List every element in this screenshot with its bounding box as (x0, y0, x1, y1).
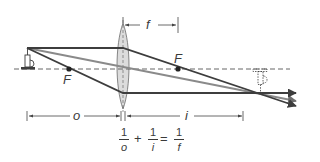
image-distance-label: i (185, 109, 188, 122)
object-distance-label: o (73, 109, 80, 122)
equals-operator: = (160, 132, 168, 145)
plus-operator: + (134, 132, 142, 145)
focal-point-right-dot (175, 66, 180, 71)
fraction-one-over-f: 1 f (174, 127, 184, 153)
focal-point-left-label: F (63, 73, 71, 86)
image-candle-inverted (253, 69, 267, 93)
fraction-one-over-i: 1 i (148, 127, 158, 153)
focal-point-left-dot (66, 66, 71, 71)
focal-length-dimension (123, 17, 178, 33)
focal-point-right-label: F (174, 52, 182, 65)
denominator: f (178, 140, 181, 153)
focal-length-label: f (146, 18, 150, 31)
numerator: 1 (148, 127, 158, 140)
image-distance-dimension (125, 111, 243, 121)
numerator: 1 (174, 127, 184, 140)
denominator: i (152, 140, 154, 153)
denominator: o (121, 140, 127, 153)
fraction-one-over-o: 1 o (119, 127, 129, 153)
numerator: 1 (119, 127, 129, 140)
